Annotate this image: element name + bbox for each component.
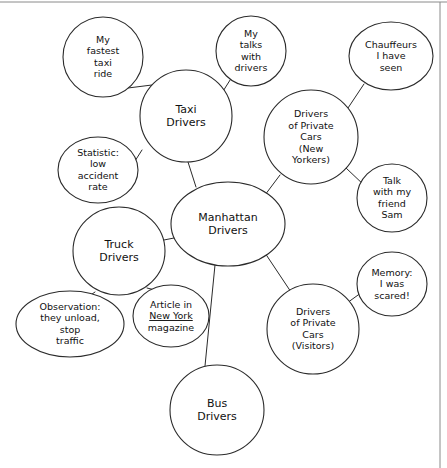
node-label-line: Observation: bbox=[39, 300, 100, 311]
connector-manhattan-drivers-to-private-cars-visitors bbox=[263, 250, 291, 292]
mind-map-diagram: ManhattanDriversTaxiDriversTruckDriversB… bbox=[0, 0, 447, 468]
node-memory-i-was-scared[interactable]: Memory:I wasscared! bbox=[357, 252, 427, 316]
node-chauffeurs-i-have-seen[interactable]: ChauffeursI haveseen bbox=[349, 22, 433, 90]
node-statistic-low-accident-rate[interactable]: Statistic:lowaccidentrate bbox=[58, 137, 138, 203]
node-label-line: of Private bbox=[288, 119, 333, 130]
node-truck-drivers[interactable]: TruckDrivers bbox=[73, 207, 165, 295]
node-label-line: Truck bbox=[103, 238, 134, 251]
node-label-line: of Private bbox=[290, 317, 335, 328]
node-label-line: rate bbox=[88, 181, 107, 192]
node-bus-drivers[interactable]: BusDrivers bbox=[170, 365, 264, 455]
node-label-line: seen bbox=[380, 61, 403, 72]
node-label-line: fastest bbox=[87, 45, 120, 56]
node-label-line: low bbox=[90, 158, 106, 169]
node-label-line: Drivers bbox=[99, 251, 139, 264]
node-label-line: My bbox=[96, 33, 110, 44]
connector-manhattan-drivers-to-truck-drivers bbox=[164, 238, 174, 240]
node-label-line: scared! bbox=[374, 289, 409, 300]
node-label-truck-drivers: TruckDrivers bbox=[99, 238, 139, 264]
node-taxi-drivers[interactable]: TaxiDrivers bbox=[140, 70, 232, 162]
node-private-cars-visitors[interactable]: Driversof PrivateCars(Visitors) bbox=[267, 284, 359, 374]
node-label-line: stop bbox=[60, 323, 81, 334]
node-label-line: ride bbox=[94, 68, 113, 79]
node-label-line: talks bbox=[240, 39, 263, 50]
node-label-line: Bus bbox=[207, 397, 228, 410]
node-label-line: New York bbox=[149, 310, 193, 321]
node-observation-they-unload[interactable]: Observation:they unload,stoptraffic bbox=[16, 291, 124, 357]
node-label-line: Yorkers) bbox=[291, 154, 330, 165]
node-label-line: Manhattan bbox=[198, 211, 257, 224]
node-label-line: My bbox=[244, 27, 258, 38]
node-article-in-new-york-magazine[interactable]: Article inNew Yorkmagazine bbox=[133, 285, 209, 347]
node-manhattan-drivers[interactable]: ManhattanDrivers bbox=[171, 182, 285, 266]
node-label-line: Cars bbox=[302, 328, 323, 339]
node-label-line: Chauffeurs bbox=[365, 38, 417, 49]
node-label-line: Talk bbox=[382, 174, 402, 185]
node-label-line: taxi bbox=[94, 56, 112, 67]
node-label-line: with bbox=[241, 50, 261, 61]
node-label-line: Drivers bbox=[166, 116, 206, 129]
mind-map-canvas: ManhattanDriversTaxiDriversTruckDriversB… bbox=[0, 0, 447, 468]
node-label-line: Drivers bbox=[294, 108, 328, 119]
node-label-line: Sam bbox=[381, 209, 402, 220]
node-label-line: with my bbox=[373, 186, 411, 197]
node-label-line: Drivers bbox=[296, 305, 330, 316]
node-label-line: magazine bbox=[148, 321, 195, 332]
node-my-talks-with-drivers[interactable]: Mytalkswithdrivers bbox=[216, 16, 286, 86]
node-label-line: Cars bbox=[300, 131, 321, 142]
connector-manhattan-drivers-to-taxi-drivers bbox=[188, 162, 196, 187]
node-label-line: (Visitors) bbox=[292, 340, 334, 351]
node-label-line: accident bbox=[78, 169, 119, 180]
node-label-line: Statistic: bbox=[77, 146, 119, 157]
node-layer: ManhattanDriversTaxiDriversTruckDriversB… bbox=[16, 16, 433, 455]
node-label-line: (New bbox=[299, 142, 324, 153]
node-label-line: Memory: bbox=[371, 266, 412, 277]
node-label-line: friend bbox=[378, 197, 406, 208]
node-private-cars-new-yorkers[interactable]: Driversof PrivateCars(NewYorkers) bbox=[264, 90, 358, 184]
node-label-article-in-new-york-magazine: Article inNew Yorkmagazine bbox=[148, 298, 195, 332]
node-label-line: I was bbox=[380, 278, 404, 289]
node-label-line: Article in bbox=[150, 298, 192, 309]
node-label-line: Drivers bbox=[197, 410, 237, 423]
node-label-line: drivers bbox=[235, 62, 268, 73]
node-my-fastest-taxi-ride[interactable]: Myfastesttaxiride bbox=[63, 17, 143, 97]
node-talk-with-my-friend-sam[interactable]: Talkwith myfriendSam bbox=[357, 164, 427, 232]
connector-private-cars-new-yorkers-to-chauffeurs-i-have-seen bbox=[346, 84, 364, 111]
node-label-line: Drivers bbox=[208, 224, 248, 237]
node-label-line: I have bbox=[376, 50, 405, 61]
node-label-line: they unload, bbox=[40, 312, 100, 323]
node-label-line: Taxi bbox=[174, 103, 196, 116]
node-label-line: traffic bbox=[56, 335, 84, 346]
